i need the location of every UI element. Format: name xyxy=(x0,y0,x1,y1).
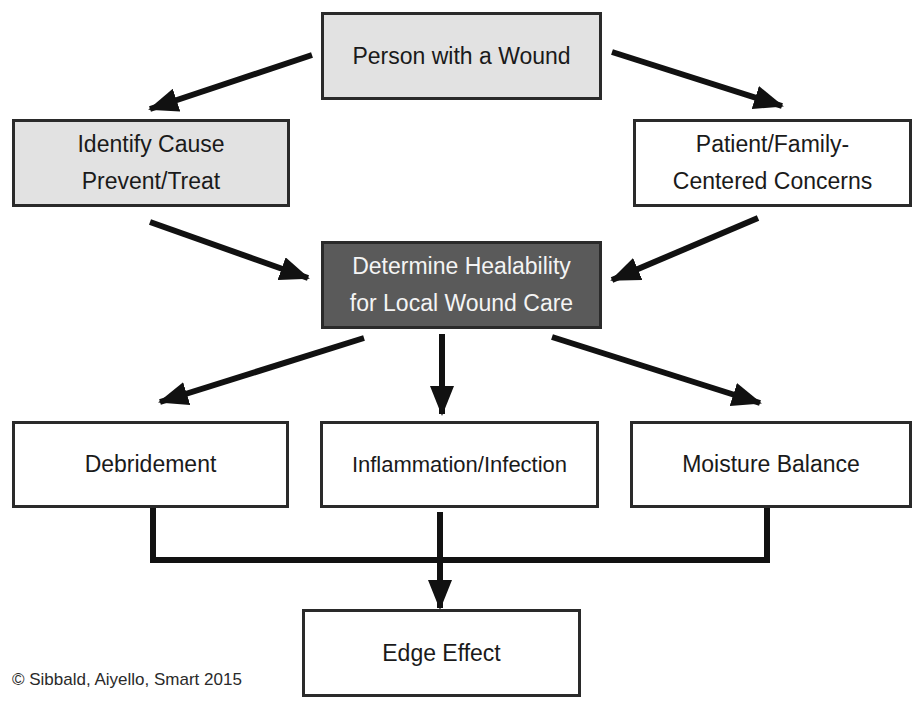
node-edge-effect: Edge Effect xyxy=(302,609,581,697)
node-label-line1: Identify Cause xyxy=(77,126,224,163)
arrow-patient-to-healability xyxy=(612,218,758,280)
node-label: Inflammation/Infection xyxy=(352,446,567,483)
node-identify-cause: Identify Cause Prevent/Treat xyxy=(12,119,290,207)
node-person-with-wound: Person with a Wound xyxy=(321,12,602,100)
node-moisture-balance: Moisture Balance xyxy=(630,421,912,508)
node-label: Person with a Wound xyxy=(352,38,570,75)
node-label-line2: Prevent/Treat xyxy=(77,163,224,200)
arrow-person-to-patient xyxy=(612,52,782,106)
node-patient-family-concerns: Patient/Family- Centered Concerns xyxy=(633,119,912,207)
node-label: Debridement xyxy=(85,446,217,483)
node-debridement: Debridement xyxy=(12,421,289,508)
node-label: Moisture Balance xyxy=(682,446,860,483)
node-determine-healability: Determine Healability for Local Wound Ca… xyxy=(321,241,602,329)
node-label: Edge Effect xyxy=(382,635,501,672)
arrow-healability-to-moisture xyxy=(552,337,760,403)
arrow-person-to-identify xyxy=(150,55,312,109)
node-label-line2: Centered Concerns xyxy=(673,163,872,200)
node-label-line2: for Local Wound Care xyxy=(350,285,573,322)
node-inflammation-infection: Inflammation/Infection xyxy=(320,421,599,508)
node-label-line1: Determine Healability xyxy=(350,248,573,285)
connector-bracket xyxy=(153,507,767,560)
arrow-identify-to-healability xyxy=(150,222,308,278)
arrow-healability-to-debridement xyxy=(160,338,364,402)
node-label-line1: Patient/Family- xyxy=(673,126,872,163)
copyright-credit: © Sibbald, Aiyello, Smart 2015 xyxy=(12,670,242,690)
